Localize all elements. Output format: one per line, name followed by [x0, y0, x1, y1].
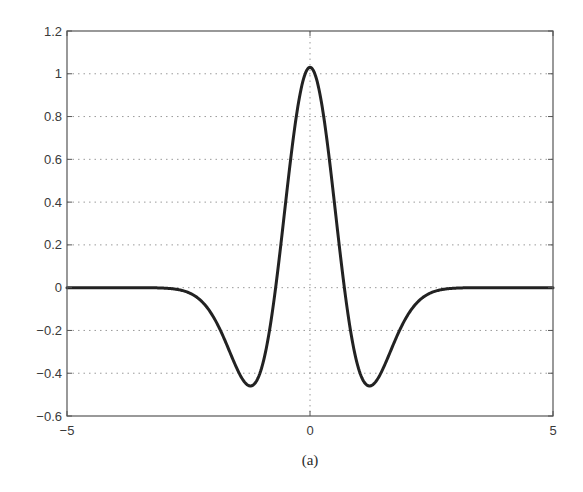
- x-tick-label: 0: [306, 423, 313, 438]
- y-tick-label: −0.2: [36, 323, 62, 338]
- y-tick-label: 1.2: [44, 24, 62, 39]
- x-tick-label: 5: [549, 423, 556, 438]
- y-tick-label: −0.6: [36, 409, 62, 424]
- chart: −0.6−0.4−0.200.20.40.60.811.2 −505 (a): [0, 0, 583, 492]
- x-axis: −505: [60, 31, 557, 438]
- figure-caption: (a): [302, 452, 319, 469]
- y-tick-label: −0.4: [36, 366, 62, 381]
- x-tick-label: −5: [60, 423, 75, 438]
- y-tick-label: 0: [55, 280, 62, 295]
- y-axis: −0.6−0.4−0.200.20.40.60.811.2: [36, 24, 553, 424]
- y-tick-label: 0.8: [44, 109, 62, 124]
- y-tick-label: 0.6: [44, 152, 62, 167]
- y-tick-label: 0.4: [44, 195, 62, 210]
- wavelet-curve: [67, 67, 553, 386]
- y-tick-label: 1: [55, 66, 62, 81]
- y-tick-label: 0.2: [44, 237, 62, 252]
